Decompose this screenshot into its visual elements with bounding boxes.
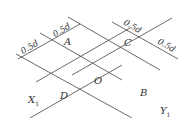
point-label-a: A [64, 37, 71, 47]
point-label-b: B [140, 88, 147, 98]
diagram: 0.5d 0.5d 0.5d 0.5d A C O B D X1 Y1 [0, 0, 192, 118]
point-label-c: C [124, 38, 132, 48]
axis-label-x1: X1 [28, 95, 39, 107]
point-label-d: D [60, 91, 68, 101]
point-label-o: O [94, 76, 102, 86]
axis-label-y1: Y1 [160, 106, 170, 118]
